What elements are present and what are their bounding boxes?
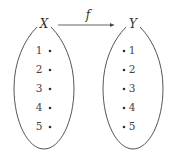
set-x: X 1 2 3 4 5 [14, 17, 74, 149]
point-icon [49, 69, 52, 72]
point-icon [49, 50, 52, 53]
point-icon [49, 107, 52, 110]
element-x-1: 1 [36, 44, 43, 56]
element-x-4: 4 [36, 101, 43, 113]
element-y-4: 4 [129, 101, 136, 113]
set-x-ellipse [14, 27, 74, 149]
element-x-5: 5 [36, 120, 43, 132]
element-y-5: 5 [129, 120, 136, 132]
point-icon [123, 50, 126, 53]
element-y-1: 1 [129, 44, 136, 56]
element-y-2: 2 [129, 63, 136, 75]
set-y-elements: 1 2 3 4 5 [123, 44, 136, 132]
function-label: f [85, 8, 93, 22]
set-y-label: Y [129, 17, 138, 31]
set-x-label: X [39, 17, 49, 31]
function-diagram: X 1 2 3 4 5 f Y 1 2 3 4 [0, 0, 173, 160]
point-icon [49, 88, 52, 91]
set-x-elements: 1 2 3 4 5 [36, 44, 52, 132]
point-icon [123, 126, 126, 129]
point-icon [123, 88, 126, 91]
point-icon [123, 69, 126, 72]
point-icon [123, 107, 126, 110]
element-x-3: 3 [36, 82, 43, 94]
point-icon [49, 126, 52, 129]
set-y: Y 1 2 3 4 5 [103, 17, 163, 149]
element-x-2: 2 [36, 63, 43, 75]
element-y-3: 3 [129, 82, 136, 94]
function-arrow: f [58, 8, 114, 25]
